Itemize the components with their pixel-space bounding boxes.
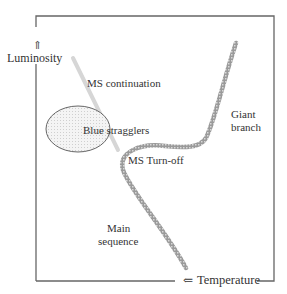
- luminosity-axis-label: Luminosity: [7, 52, 62, 65]
- hr-diagram: [0, 0, 287, 294]
- giant-branch-label-line2: branch: [231, 121, 261, 134]
- ms-turnoff-label: MS Turn-off: [128, 154, 184, 167]
- main-sequence-label-line1: Main: [107, 222, 130, 235]
- giant-branch-label-line1: Giant: [231, 108, 255, 121]
- ms-continuation-label: MS continuation: [87, 77, 161, 90]
- luminosity-arrow-icon: ⇑: [33, 40, 42, 51]
- blue-stragglers-label: Blue stragglers: [83, 124, 149, 137]
- temperature-arrow-icon: ⇐: [183, 274, 193, 287]
- temperature-axis-label: Temperature: [197, 274, 260, 287]
- main-sequence-label-line2: sequence: [98, 235, 138, 248]
